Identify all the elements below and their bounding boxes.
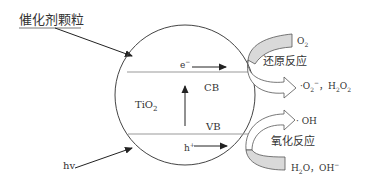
light-arrow-icon (75, 148, 132, 168)
oxidation-reactants-label: H2O，OH− (291, 161, 339, 175)
reduction-reaction-label: 还原反应 (263, 54, 307, 68)
tio2-label: TiO2 (135, 99, 158, 113)
light-hv-label: hv (63, 160, 75, 171)
reduction-products-label: ·O2−，H2O2 (300, 79, 351, 93)
o2-reactant-label: O2 (297, 36, 308, 48)
electron-label: e− (180, 58, 190, 70)
vb-label: VB (205, 121, 221, 132)
catalyst-particle-label: 催化剂颗粒 (19, 12, 84, 27)
pointer-arrow-icon (55, 28, 132, 56)
oxidation-reactant-band-icon (246, 150, 285, 170)
photocatalysis-diagram: 催化剂颗粒 e− CB TiO2 VB h+ hv O2 还原反应 ·O2−，H… (0, 0, 370, 185)
oxidation-reaction-label: 氧化反应 (271, 134, 315, 148)
hole-label: h+ (184, 141, 195, 153)
oh-radical-label: · OH (296, 116, 317, 126)
cb-label: CB (204, 82, 219, 93)
